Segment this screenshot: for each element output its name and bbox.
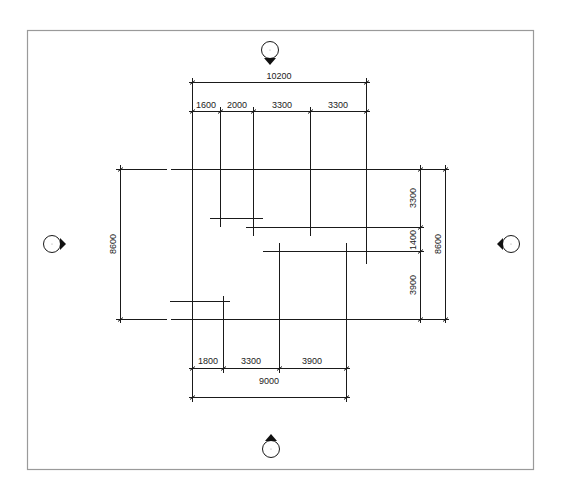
direction-marker-right: [497, 236, 520, 253]
drawing-frame: [28, 31, 534, 470]
direction-marker-top: [262, 42, 279, 66]
dim-top-segment-4: 3300: [328, 100, 348, 110]
dim-right-overall: 8600: [433, 234, 443, 254]
dim-bottom-overall: 9000: [259, 376, 279, 386]
dim-top-segment-2: 2000: [227, 100, 247, 110]
dim-top-overall: 10200: [266, 71, 291, 81]
dim-left-overall: 8600: [108, 234, 118, 254]
dim-bottom-segment-3: 3900: [302, 356, 322, 366]
dim-top-segment-3: 3300: [272, 100, 292, 110]
direction-marker-bottom: [263, 434, 280, 458]
dimension-ticks: [118, 81, 448, 400]
dim-right-segment-2: 1400: [408, 230, 418, 250]
dim-bottom-segment-1: 1800: [198, 356, 218, 366]
dim-right-segment-3: 3900: [408, 275, 418, 295]
dim-right-segment-1: 3300: [408, 188, 418, 208]
dim-bottom-segment-2: 3300: [241, 356, 261, 366]
dim-top-segment-1: 1600: [196, 100, 216, 110]
grid-plan-drawing: 10200 1600 2000 3300 3300 1800 3300 3900…: [0, 0, 561, 493]
direction-marker-left: [44, 236, 67, 253]
